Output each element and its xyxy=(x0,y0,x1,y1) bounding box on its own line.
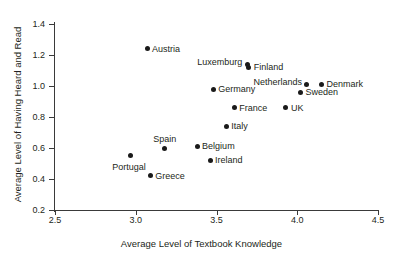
data-point-ireland[interactable] xyxy=(208,158,213,163)
data-point-denmark[interactable] xyxy=(319,82,324,87)
data-point-label-austria: Austria xyxy=(152,44,180,54)
data-point-sweden[interactable] xyxy=(298,90,303,95)
data-point-label-ireland: Ireland xyxy=(215,155,243,165)
y-tick-mark xyxy=(49,24,55,25)
data-point-portugal[interactable] xyxy=(128,153,133,158)
y-tick-label: 0.4 xyxy=(32,175,45,184)
y-tick-label: 1.2 xyxy=(32,51,45,60)
data-point-italy[interactable] xyxy=(224,124,229,129)
y-tick-mark xyxy=(49,117,55,118)
y-tick-label: 1.0 xyxy=(32,82,45,91)
x-tick-label: 3.0 xyxy=(121,216,151,225)
data-point-label-belgium: Belgium xyxy=(202,141,235,151)
data-point-label-sweden: Sweden xyxy=(305,87,338,97)
y-tick-label: 1.4 xyxy=(32,20,45,29)
data-point-austria[interactable] xyxy=(145,46,150,51)
data-point-finland[interactable] xyxy=(246,65,251,70)
data-point-label-netherlands: Netherlands xyxy=(253,77,302,87)
data-point-label-portugal: Portugal xyxy=(112,162,146,172)
y-tick-label: 0.6 xyxy=(32,144,45,153)
data-point-germany[interactable] xyxy=(211,87,216,92)
data-point-label-spain: Spain xyxy=(153,134,176,144)
data-point-spain[interactable] xyxy=(162,146,167,151)
y-axis-title: Average Level of Having Heard and Read xyxy=(12,15,23,215)
data-point-belgium[interactable] xyxy=(195,144,200,149)
data-point-label-italy: Italy xyxy=(231,121,248,131)
y-tick-mark xyxy=(49,55,55,56)
data-point-label-uk: UK xyxy=(291,103,304,113)
data-point-label-greece: Greece xyxy=(155,171,185,181)
scatter-chart: 0.20.40.60.81.01.21.4 2.53.03.54.04.5 Au… xyxy=(0,0,403,268)
y-tick-mark xyxy=(49,86,55,87)
data-point-greece[interactable] xyxy=(148,173,153,178)
x-axis-title: Average Level of Textbook Knowledge xyxy=(0,238,403,249)
x-tick-label: 4.5 xyxy=(363,216,393,225)
x-tick-label: 3.5 xyxy=(202,216,232,225)
data-point-france[interactable] xyxy=(232,105,237,110)
y-tick-label: 0.2 xyxy=(32,206,45,215)
data-point-label-france: France xyxy=(239,103,267,113)
data-point-label-luxemburg: Luxemburg xyxy=(197,57,242,67)
y-tick-mark xyxy=(49,148,55,149)
data-point-label-finland: Finland xyxy=(254,62,284,72)
data-point-label-germany: Germany xyxy=(218,84,255,94)
y-tick-mark xyxy=(49,179,55,180)
x-tick-label: 2.5 xyxy=(40,216,70,225)
data-point-netherlands[interactable] xyxy=(304,82,309,87)
y-tick-label: 0.8 xyxy=(32,113,45,122)
x-tick-label: 4.0 xyxy=(282,216,312,225)
data-point-uk[interactable] xyxy=(283,105,288,110)
